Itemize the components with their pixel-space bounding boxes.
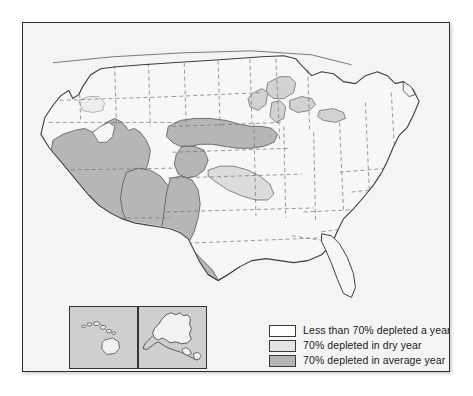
alaska-landmass	[139, 307, 206, 368]
figure-root: Less than 70% depleted a year 70% deplet…	[0, 0, 473, 396]
legend-label-average-year: 70% depleted in average year	[303, 354, 445, 367]
hawaii-inset	[69, 306, 138, 369]
legend-label-dry-year: 70% depleted in dry year	[303, 339, 422, 352]
legend-item-average-year: 70% depleted in average year	[269, 353, 449, 368]
legend-label-less-than-70: Less than 70% depleted a year	[303, 324, 450, 337]
hawaii-islands	[70, 307, 137, 368]
map-frame: Less than 70% depleted a year 70% deplet…	[22, 22, 450, 372]
legend-item-dry-year: 70% depleted in dry year	[269, 338, 449, 353]
legend-item-less-than-70: Less than 70% depleted a year	[269, 323, 449, 338]
map-legend: Less than 70% depleted a year 70% deplet…	[269, 323, 449, 368]
legend-swatch-medium-gray	[269, 355, 296, 367]
alaska-inset	[138, 306, 207, 369]
legend-swatch-white	[269, 325, 296, 337]
legend-swatch-light-gray	[269, 340, 296, 352]
